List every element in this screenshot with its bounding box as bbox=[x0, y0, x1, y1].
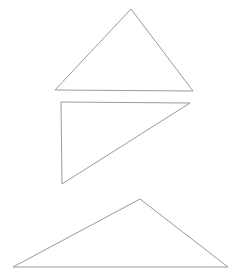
shapes-svg bbox=[0, 0, 241, 280]
drawing-canvas bbox=[0, 0, 241, 280]
canvas-background bbox=[0, 0, 241, 280]
